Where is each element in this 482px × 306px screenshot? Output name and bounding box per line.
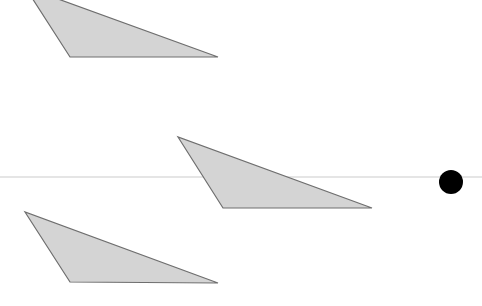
triangle-middle — [178, 137, 372, 208]
triangle-top — [25, 0, 218, 57]
black-circle — [439, 170, 463, 194]
diagram-canvas — [0, 0, 482, 306]
triangle-bottom — [25, 212, 218, 283]
